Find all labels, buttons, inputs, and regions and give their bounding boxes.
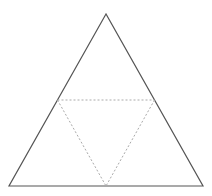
triangle-diagram (0, 0, 212, 196)
midpoint-line-left (58, 100, 107, 186)
midpoint-line-right (106, 100, 155, 186)
diagram-canvas (0, 0, 212, 196)
